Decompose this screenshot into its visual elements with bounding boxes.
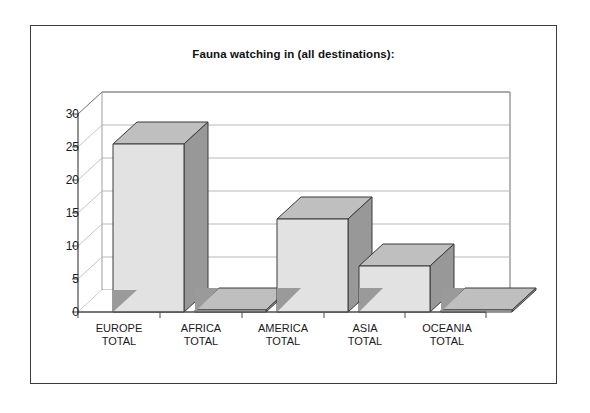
x-tick-label-america: AMERICA TOTAL (258, 322, 308, 347)
x-tick-label-africa-line1: AFRICA (181, 322, 221, 335)
plot-area: 30 25 20 15 10 5 0 EUROPE TOTAL AFRICA T… (31, 26, 558, 385)
x-tick-label-oceania-line2: TOTAL (422, 335, 472, 348)
x-tick-label-africa-line2: TOTAL (181, 335, 221, 348)
x-tick-label-america-line2: TOTAL (258, 335, 308, 348)
x-tick-label-europe: EUROPE TOTAL (96, 322, 142, 347)
chart-frame: Fauna watching in (all destinations): (30, 25, 557, 384)
x-tick-label-africa: AFRICA TOTAL (181, 322, 221, 347)
x-tick-label-asia-line2: TOTAL (348, 335, 382, 348)
x-tick-label-europe-line1: EUROPE (96, 322, 142, 335)
x-tick-label-asia-line1: ASIA (348, 322, 382, 335)
x-tick-label-oceania: OCEANIA TOTAL (422, 322, 472, 347)
x-tick-label-asia: ASIA TOTAL (348, 322, 382, 347)
x-tick-label-oceania-line1: OCEANIA (422, 322, 472, 335)
x-tick-label-europe-line2: TOTAL (96, 335, 142, 348)
x-tick-label-america-line1: AMERICA (258, 322, 308, 335)
x-axis-labels: EUROPE TOTAL AFRICA TOTAL AMERICA TOTAL … (31, 26, 558, 385)
